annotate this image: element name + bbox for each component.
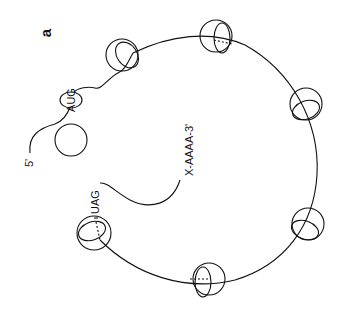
mrna-backbone bbox=[100, 36, 317, 284]
free-ribosome-subunit bbox=[55, 124, 87, 156]
three-prime-tail-label: X-AAAA-3' bbox=[183, 124, 195, 176]
mrna-aug-to-ribosome bbox=[74, 53, 133, 92]
ribosome-4 bbox=[289, 208, 324, 243]
panel-label: a bbox=[37, 28, 54, 37]
five-prime-label: 5' bbox=[23, 159, 35, 167]
ribosome-5 bbox=[190, 263, 225, 297]
stop-codon-label: UAG bbox=[89, 190, 101, 214]
start-codon-label: AUG bbox=[65, 88, 77, 112]
mrna-5prime-leader bbox=[30, 107, 70, 153]
ribosome-6 bbox=[76, 216, 111, 250]
ribosome-3 bbox=[290, 88, 322, 123]
mrna-3prime-tail bbox=[100, 180, 180, 205]
polysome-diagram: a AUG 5' UAG X-AAAA-3' bbox=[0, 0, 345, 319]
